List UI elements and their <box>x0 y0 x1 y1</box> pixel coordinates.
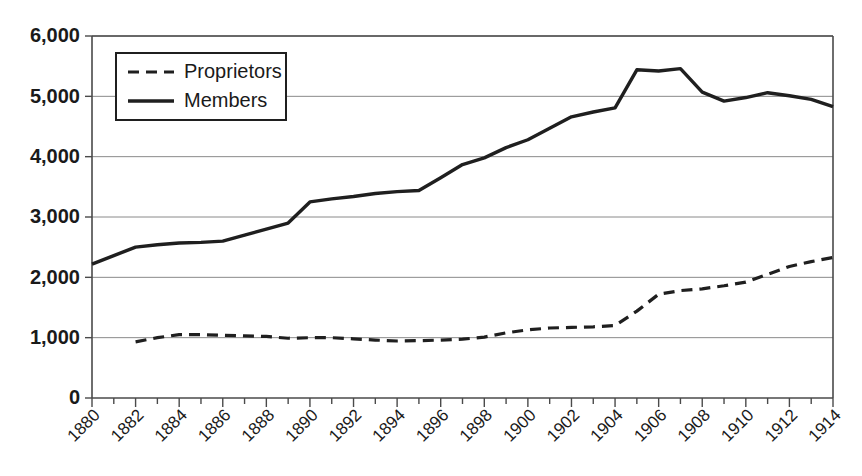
y-tick-label-0: 0 <box>69 386 80 408</box>
x-tick-label-1912: 1912 <box>761 405 801 445</box>
y-tick-label-2000: 2,000 <box>30 266 80 288</box>
x-tick-label-1898: 1898 <box>456 405 496 445</box>
x-tick-label-1894: 1894 <box>369 405 409 445</box>
y-axis <box>85 36 92 398</box>
chart-canvas: 01,0002,0003,0004,0005,0006,000 18801882… <box>0 0 862 476</box>
x-tick-label-1880: 1880 <box>64 405 104 445</box>
x-tick-label-1904: 1904 <box>587 405 627 445</box>
y-tick-label-3000: 3,000 <box>30 205 80 227</box>
y-tick-label-6000: 6,000 <box>30 24 80 46</box>
y-tick-labels: 01,0002,0003,0004,0005,0006,000 <box>30 24 80 408</box>
x-tick-label-1902: 1902 <box>543 405 583 445</box>
x-tick-label-1900: 1900 <box>500 405 540 445</box>
x-tick-label-1882: 1882 <box>107 405 147 445</box>
line-chart: 01,0002,0003,0004,0005,0006,000 18801882… <box>0 0 862 476</box>
x-tick-label-1914: 1914 <box>805 405 845 445</box>
legend-label-proprietors: Proprietors <box>184 60 282 82</box>
y-tick-label-1000: 1,000 <box>30 326 80 348</box>
x-tick-label-1884: 1884 <box>151 405 191 445</box>
x-tick-label-1892: 1892 <box>325 405 365 445</box>
x-tick-label-1910: 1910 <box>717 405 757 445</box>
x-tick-label-1890: 1890 <box>282 405 322 445</box>
x-tick-label-1906: 1906 <box>630 405 670 445</box>
x-tick-label-1908: 1908 <box>674 405 714 445</box>
x-tick-label-1888: 1888 <box>238 405 278 445</box>
x-tick-labels: 1880188218841886188818901892189418961898… <box>64 405 845 445</box>
series-line-proprietors <box>136 257 833 341</box>
x-tick-label-1896: 1896 <box>412 405 452 445</box>
chart-legend: ProprietorsMembers <box>116 53 286 120</box>
y-tick-label-4000: 4,000 <box>30 145 80 167</box>
legend-label-members: Members <box>184 89 267 111</box>
y-tick-label-5000: 5,000 <box>30 85 80 107</box>
x-tick-label-1886: 1886 <box>194 405 234 445</box>
